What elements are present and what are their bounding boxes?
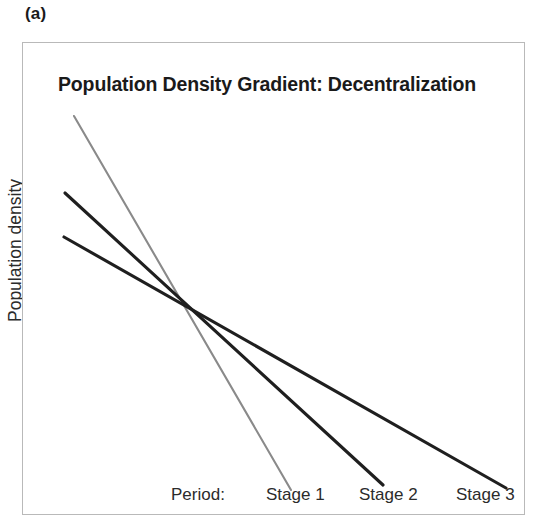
density-gradient-plot xyxy=(23,43,526,516)
x-axis-tick-stage-2: Stage 2 xyxy=(359,485,418,505)
x-axis-tick-stage-1: Stage 1 xyxy=(266,485,325,505)
stage2-gradient-line xyxy=(65,193,383,485)
x-axis-period-label: Period: xyxy=(171,485,225,505)
panel-label: (a) xyxy=(25,4,46,24)
stage3-gradient-line xyxy=(64,237,506,488)
chart-frame: Population Density Gradient: Decentraliz… xyxy=(22,42,525,515)
x-axis-tick-stage-3: Stage 3 xyxy=(456,485,515,505)
